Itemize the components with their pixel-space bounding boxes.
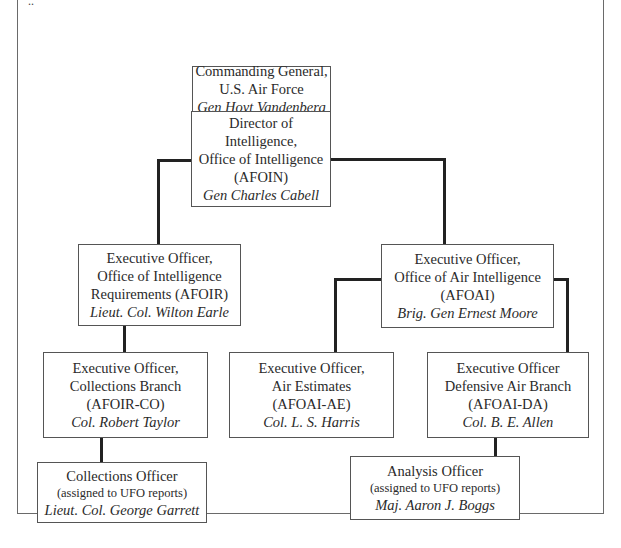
node-person-name: Brig. Gen Ernest Moore [397,304,537,322]
node-person-name: Col. Robert Taylor [71,413,180,431]
connector-director-to-afoai-h [330,158,446,161]
header-fragment: .. [28,0,34,9]
node-director-intelligence: Director of Intelligence, Office of Inte… [191,111,331,207]
node-title-line: Office of Air Intelligence [394,268,541,286]
node-person-name: Col. B. E. Allen [463,413,554,431]
node-afoai-da: Executive Officer Defensive Air Branch (… [427,352,589,438]
node-afoai: Executive Officer, Office of Air Intelli… [381,244,554,328]
node-title-line: U.S. Air Force [219,80,304,98]
node-afoir-co: Executive Officer, Collections Branch (A… [43,352,208,438]
node-title-line: (AFOAI-AE) [272,395,350,413]
connector-afoai-da-to-analysis [494,437,497,457]
node-title-line: (AFOIN) [234,168,288,186]
connector-director-to-afoir-h [157,159,192,162]
connector-director-to-afoir-v [157,159,160,245]
node-title-line: (AFOAI-DA) [468,395,548,413]
node-title-line: Requirements (AFOIR) [91,285,228,303]
node-subtitle: (assigned to UFO reports) [57,485,187,501]
node-collections-officer: Collections Officer (assigned to UFO rep… [37,462,207,523]
node-title-line: Collections Officer [66,467,177,485]
node-person-name: Gen Charles Cabell [203,186,319,204]
connector-afoai-to-ae-h [334,278,382,281]
connector-afoir-to-afoir-co [123,325,126,353]
node-title-line: Director of Intelligence, [192,114,330,150]
node-title-line: Analysis Officer [387,462,483,480]
node-title-line: Commanding General, [195,62,327,80]
node-title-line: Executive Officer, [106,249,212,267]
node-person-name: Col. L. S. Harris [263,413,360,431]
node-title-line: Executive Officer, [414,250,520,268]
connector-afoai-to-da-v [566,278,569,353]
node-title-line: Office of Intelligence [97,267,222,285]
node-person-name: Maj. Aaron J. Boggs [375,496,495,514]
connector-afoir-co-to-collections [100,437,103,463]
connector-director-to-afoai-v [443,158,446,245]
node-analysis-officer: Analysis Officer (assigned to UFO report… [350,456,520,520]
node-title-line: Defensive Air Branch [445,377,571,395]
node-title-line: (AFOIR-CO) [86,395,164,413]
node-afoai-ae: Executive Officer, Air Estimates (AFOAI-… [229,352,394,438]
node-title-line: Air Estimates [272,377,351,395]
node-subtitle: (assigned to UFO reports) [370,480,500,496]
node-title-line: Executive Officer [456,359,559,377]
node-title-line: Executive Officer, [258,359,364,377]
node-title-line: Office of Intelligence [199,150,324,168]
node-title-line: Collections Branch [70,377,182,395]
node-afoir: Executive Officer, Office of Intelligenc… [78,244,241,326]
node-person-name: Lieut. Col. Wilton Earle [90,303,229,321]
node-title-line: (AFOAI) [441,286,495,304]
node-person-name: Lieut. Col. George Garrett [45,501,200,519]
node-commanding-general: Commanding General, U.S. Air Force Gen H… [192,66,331,112]
node-title-line: Executive Officer, [72,359,178,377]
connector-afoai-to-ae-v [334,278,337,353]
